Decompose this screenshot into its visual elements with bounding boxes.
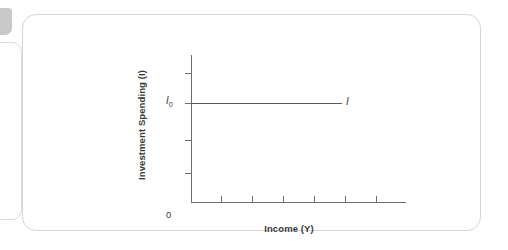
x-axis-tick (252, 196, 253, 202)
origin-label: 0 (166, 209, 171, 220)
y-axis-tick (185, 173, 192, 174)
x-axis-tick (376, 196, 377, 202)
curve-label-i: I (346, 96, 349, 107)
x-axis-tick (221, 196, 222, 202)
background-panel (0, 42, 22, 220)
y-axis-line (191, 55, 192, 203)
x-axis-tick (314, 196, 315, 202)
y-axis-label-i0-subscript: 0 (169, 101, 173, 108)
x-axis-title: Income (Y) (223, 223, 355, 234)
x-axis-tick (283, 196, 284, 202)
y-axis-tick (185, 73, 192, 74)
x-axis-line (191, 202, 406, 203)
investment-function-chart: Investment Spending (I) Income (Y) I0 I … (23, 15, 508, 250)
y-axis-label-i0: I0 (166, 95, 173, 108)
y-axis-title: Investment Spending (I) (133, 0, 151, 60)
investment-function-line (191, 103, 342, 104)
y-axis-tick (185, 140, 192, 141)
y-axis-title-label: Investment Spending (I) (133, 60, 151, 190)
figure-card: Investment Spending (I) Income (Y) I0 I … (22, 14, 481, 231)
corner-tab (0, 8, 12, 35)
x-axis-tick (345, 196, 346, 202)
